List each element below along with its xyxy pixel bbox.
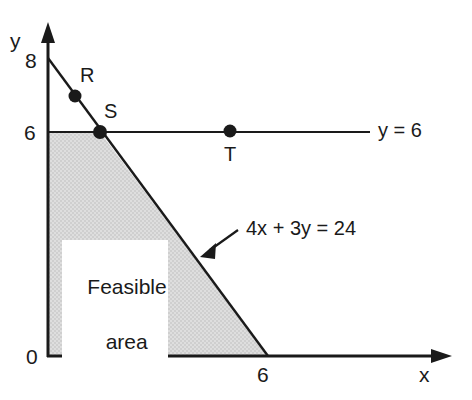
y-axis-label: y: [10, 30, 21, 51]
feasible-region-figure: y x 8 6 0 6 R S T y = 6 4x + 3y = 24 Fea…: [0, 0, 472, 400]
y-equals-6-label: y = 6: [378, 120, 422, 140]
x-axis-arrow-icon: [431, 349, 452, 363]
x-axis-label: x: [419, 364, 430, 385]
point-T-label: T: [224, 144, 236, 164]
point-T-marker: [224, 125, 237, 138]
feasible-area-label-line2: area: [106, 330, 148, 353]
feasible-area-label-line1: Feasible: [87, 275, 166, 298]
y-axis-arrow-icon: [41, 22, 55, 43]
constraint-line-label: 4x + 3y = 24: [246, 218, 356, 238]
point-R-marker: [69, 90, 82, 103]
y-tick-6: 6: [24, 122, 36, 143]
constraint-annotation-arrow-icon: [200, 243, 216, 259]
x-tick-6: 6: [257, 364, 269, 385]
feasible-area-label: Feasible area: [62, 240, 168, 388]
y-tick-8: 8: [25, 50, 37, 71]
point-R-label: R: [80, 65, 94, 85]
point-S-label: S: [104, 101, 117, 121]
origin-label: 0: [26, 346, 38, 367]
point-S-marker: [93, 125, 107, 139]
